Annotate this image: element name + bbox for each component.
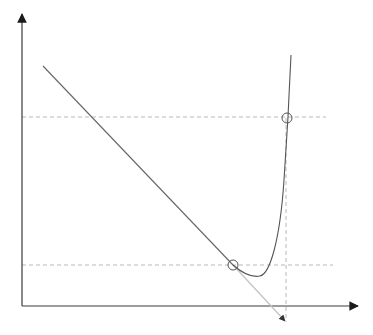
- tangent-line-extension: [233, 265, 285, 321]
- tangent-line: [43, 66, 233, 265]
- function-curve: [233, 55, 291, 276]
- upper-intersection-marker: [282, 113, 292, 123]
- diagram-canvas: [0, 0, 373, 335]
